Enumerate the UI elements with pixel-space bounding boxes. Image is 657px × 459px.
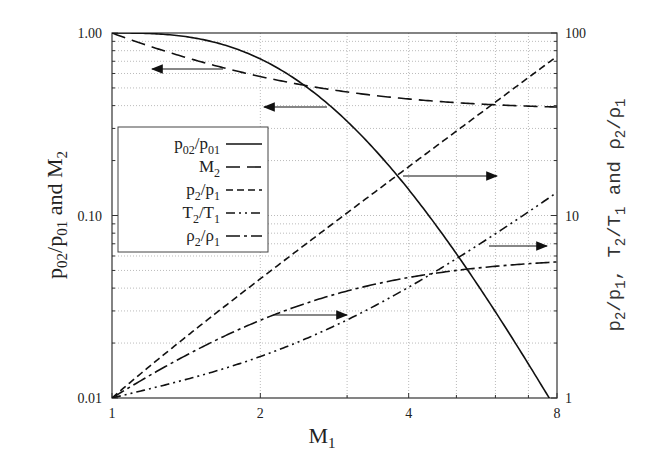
y-left-tick-label: 1.00 — [78, 26, 103, 41]
x-tick-label: 2 — [257, 406, 264, 421]
legend: p02/p01M2p2/p1T2/T1ρ2/ρ1 — [118, 127, 268, 252]
y-right-tick-label: 10 — [565, 209, 579, 224]
y-right-tick-label: 100 — [565, 26, 586, 41]
x-tick-label: 4 — [405, 406, 412, 421]
x-tick-label: 1 — [109, 406, 116, 421]
x-tick-label: 8 — [554, 406, 561, 421]
y-left-tick-label: 0.10 — [78, 209, 103, 224]
y-left-tick-label: 0.01 — [78, 391, 103, 406]
left-axis-label: p02/p01 and M2 — [42, 151, 70, 279]
y-right-tick-label: 1 — [565, 391, 572, 406]
x-axis-label: M1 — [308, 423, 335, 451]
right-axis-label: p2/p1, T2/T1 and ρ2/ρ1 — [604, 99, 629, 332]
chart: 12480.010.101.00110100 p02/p01M2p2/p1T2/… — [0, 0, 657, 459]
curve-21 — [112, 262, 557, 398]
curve-m2 — [112, 33, 557, 107]
